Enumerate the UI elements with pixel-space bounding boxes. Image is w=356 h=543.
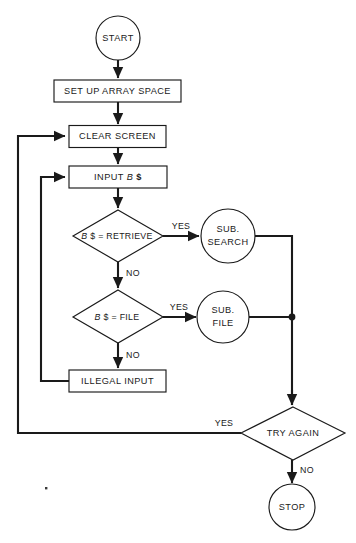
node-decision-file-label: B $ = FILE xyxy=(95,312,140,322)
connector-illegal-to-input xyxy=(41,177,69,381)
input-label-prefix: INPUT xyxy=(94,172,127,182)
node-try-again-label: TRY AGAIN xyxy=(267,428,320,438)
node-clear-screen-label: CLEAR SCREEN xyxy=(79,131,156,141)
flowchart-svg: START SET UP ARRAY SPACE CLEAR SCREEN IN… xyxy=(0,0,356,543)
node-set-up-array-space-label: SET UP ARRAY SPACE xyxy=(64,86,171,96)
node-sub-search-line1: SUB. xyxy=(216,224,239,234)
scan-speck xyxy=(45,487,47,489)
node-illegal-input-label: ILLEGAL INPUT xyxy=(81,376,154,386)
bus-junction-dot xyxy=(289,314,296,321)
connector-sub-search-to-bus xyxy=(254,236,292,405)
input-label-suffix: $ xyxy=(133,172,142,182)
flowchart-canvas: START SET UP ARRAY SPACE CLEAR SCREEN IN… xyxy=(0,0,356,543)
node-sub-search[interactable] xyxy=(201,209,255,263)
node-sub-file-line1: SUB. xyxy=(211,305,234,315)
node-sub-search-line2: SEARCH xyxy=(208,237,249,247)
edge-label-retrieve-yes: YES xyxy=(172,221,191,231)
edge-label-file-no: NO xyxy=(126,350,140,360)
node-start-label: START xyxy=(102,33,134,43)
file-label-rest: $ = FILE xyxy=(101,312,140,322)
node-stop-label: STOP xyxy=(279,502,306,512)
edge-label-retrieve-no: NO xyxy=(126,268,140,278)
node-sub-file[interactable] xyxy=(197,291,249,343)
node-sub-file-line2: FILE xyxy=(212,318,233,328)
node-decision-retrieve-label: B $ = RETRIEVE xyxy=(81,231,152,241)
edge-label-try-again-no: NO xyxy=(300,465,314,475)
edge-label-file-yes: YES xyxy=(170,302,189,312)
edge-label-try-again-yes: YES xyxy=(215,418,234,428)
node-input-bstring-label: INPUT B $ xyxy=(94,172,142,182)
retrieve-label-rest: $ = RETRIEVE xyxy=(87,231,152,241)
